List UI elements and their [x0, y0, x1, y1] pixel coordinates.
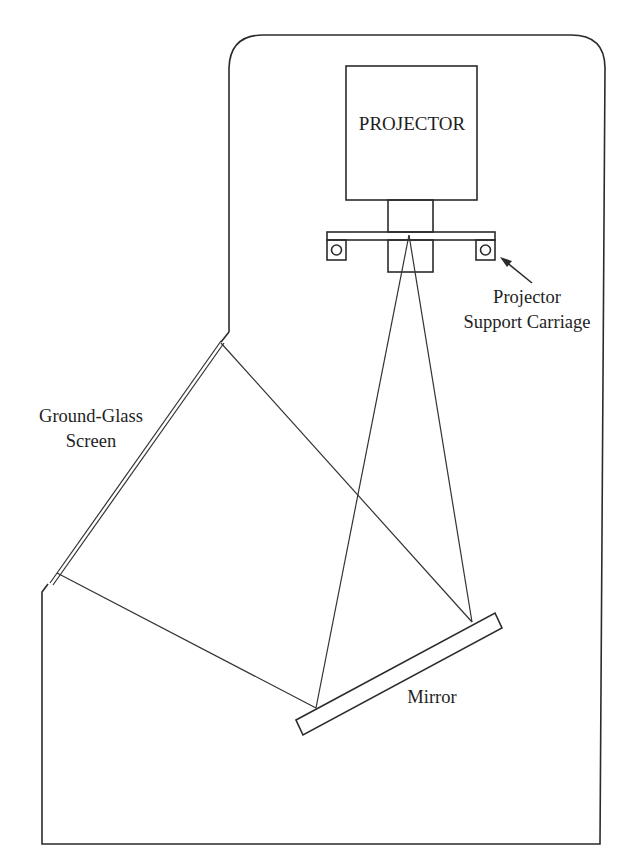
screen-label-line2: Screen: [66, 431, 116, 451]
mirror: [296, 613, 502, 735]
carriage-foot-right: [476, 240, 495, 260]
carriage-bar: [327, 232, 495, 240]
carriage-foot-left: [327, 240, 346, 260]
wheel-icon: [332, 245, 342, 255]
carriage-arrow-icon: [500, 257, 532, 283]
carriage-label-line2: Support Carriage: [464, 312, 591, 332]
light-rays: [57, 235, 472, 708]
projector-lens-upper: [388, 200, 433, 232]
mirror-label: Mirror: [407, 687, 456, 707]
projector-label: PROJECTOR: [359, 113, 466, 134]
cabinet-outline: [42, 35, 605, 844]
ground-glass-screen: [50, 341, 224, 585]
carriage-label-line1: Projector: [493, 287, 561, 307]
rear-projection-diagram: PROJECTOR Projector Support Carriage Gro…: [0, 0, 627, 865]
screen-label-line1: Ground-Glass: [39, 406, 143, 426]
wheel-icon: [481, 245, 491, 255]
cabinet-notch-upper: [221, 332, 229, 342]
